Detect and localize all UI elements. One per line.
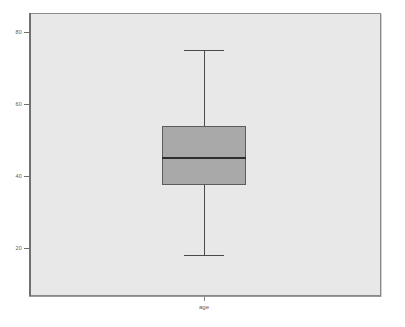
box-iqr bbox=[162, 126, 246, 185]
y-axis-tick-80 bbox=[24, 32, 30, 33]
y-axis-tick-40 bbox=[24, 176, 30, 177]
x-axis-tick-age bbox=[204, 296, 205, 301]
y-axis-tick-label-20: 20 bbox=[0, 245, 22, 251]
whisker-stem-upper bbox=[204, 50, 205, 126]
y-axis-line bbox=[29, 13, 31, 296]
boxplot-figure: 80604020 age bbox=[0, 0, 405, 327]
median-line bbox=[162, 157, 246, 159]
y-axis-tick-20 bbox=[24, 248, 30, 249]
y-axis-tick-label-80: 80 bbox=[0, 29, 22, 35]
y-axis-tick-60 bbox=[24, 104, 30, 105]
whisker-stem-lower bbox=[204, 185, 205, 255]
x-axis-tick-label-age: age bbox=[178, 303, 230, 311]
y-axis-tick-label-60: 60 bbox=[0, 101, 22, 107]
x-axis-line bbox=[29, 296, 381, 297]
whisker-cap-lower bbox=[184, 255, 224, 256]
y-axis-tick-label-40: 40 bbox=[0, 173, 22, 179]
